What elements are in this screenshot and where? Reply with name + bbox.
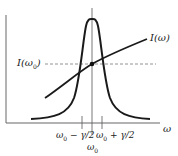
- right-half-width-label: ω0 + γ/2: [96, 131, 135, 142]
- left-half-width-label: ω0 − γ/2: [56, 131, 95, 142]
- resonance-peak-curve: [31, 19, 150, 119]
- center-intensity-label: I(ω0): [17, 58, 41, 70]
- intensity-curve-label: I(ω): [150, 33, 170, 43]
- x-axis-label: ω: [163, 124, 171, 134]
- center-frequency-label: ω0: [87, 143, 98, 154]
- intensity-curve: [45, 39, 147, 98]
- intersection-point: [90, 62, 95, 67]
